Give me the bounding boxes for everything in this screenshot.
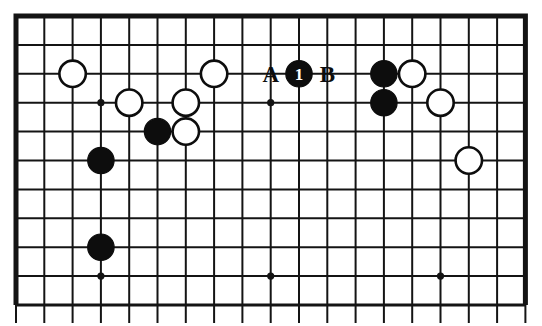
- white-stone: [427, 90, 453, 116]
- star-point: [267, 99, 274, 106]
- white-stone: [173, 90, 199, 116]
- stone-disc: [116, 90, 142, 116]
- star-point: [97, 273, 104, 280]
- stone-disc: [173, 90, 199, 116]
- marker-a-label: A: [262, 62, 279, 87]
- star-point: [97, 99, 104, 106]
- white-stone: [399, 61, 425, 87]
- stone-disc: [456, 147, 482, 173]
- stone-disc: [88, 147, 114, 173]
- stone-disc: [399, 61, 425, 87]
- black-stone: [144, 118, 170, 144]
- stone-disc: [173, 118, 199, 144]
- stone-disc: [371, 90, 397, 116]
- star-point: [437, 273, 444, 280]
- black-stone: [371, 90, 397, 116]
- white-stone: [116, 90, 142, 116]
- stone-disc: [427, 90, 453, 116]
- stone-disc: [201, 61, 227, 87]
- white-stone: [201, 61, 227, 87]
- go-board-canvas: AB 1: [0, 0, 542, 326]
- black-stone: 1: [286, 61, 312, 87]
- black-stone: [88, 147, 114, 173]
- stone-disc: [88, 234, 114, 260]
- go-board-diagram: AB 1: [0, 0, 542, 326]
- stone-disc: [371, 61, 397, 87]
- move-number-label: 1: [295, 65, 304, 84]
- marker-b-label: B: [320, 62, 335, 87]
- stone-disc: [59, 61, 85, 87]
- white-stone: [456, 147, 482, 173]
- white-stone: [59, 61, 85, 87]
- black-stone: [371, 61, 397, 87]
- white-stone: [173, 118, 199, 144]
- stone-disc: [144, 118, 170, 144]
- black-stone: [88, 234, 114, 260]
- star-point: [267, 273, 274, 280]
